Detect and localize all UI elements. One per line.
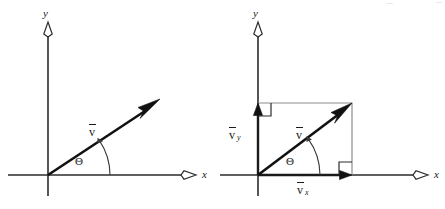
left-vector-shaft [48,111,145,175]
left-vector-arrowhead-icon [138,99,160,118]
left-vector-label-text: v [89,126,96,138]
right-theta-label: Θ [286,156,294,167]
right-y-axis-arrow-icon [254,22,262,37]
left-y-axis-arrow-icon [44,22,52,37]
y-component-label: v y [229,127,240,141]
y-component-arrowhead-icon [253,103,262,116]
right-panel-group [220,22,428,196]
y-component-label-text: v [229,129,236,141]
right-x-axis-arrow-icon [413,171,428,179]
scan-speck [386,3,393,4]
right-vector-shaft [258,114,339,175]
right-vector-arrowhead-icon [331,103,352,123]
x-component-label: v x [297,182,308,196]
left-angle-arc [100,141,111,175]
x-component-label-text: v [297,184,304,196]
right-vector-label: v [296,127,303,141]
scan-speck [436,2,442,3]
left-x-axis-label: x [202,169,207,180]
right-y-axis-label: y [253,8,258,19]
right-angle-arc [308,139,320,175]
figure-canvas [0,0,445,209]
vector-components-figure: y x v Θ y x v y v v x Θ [0,0,445,209]
left-panel-group [8,22,196,196]
x-component-subscript: x [305,188,309,197]
left-x-axis-arrow-icon [181,171,196,179]
left-y-axis-label: y [43,8,48,19]
left-theta-label: Θ [75,156,83,167]
left-vector-label: v [89,124,96,138]
y-component-subscript: y [237,133,241,142]
x-component-arrowhead-icon [340,170,353,179]
right-x-axis-label: x [434,169,439,180]
right-vector-label-text: v [296,129,303,141]
